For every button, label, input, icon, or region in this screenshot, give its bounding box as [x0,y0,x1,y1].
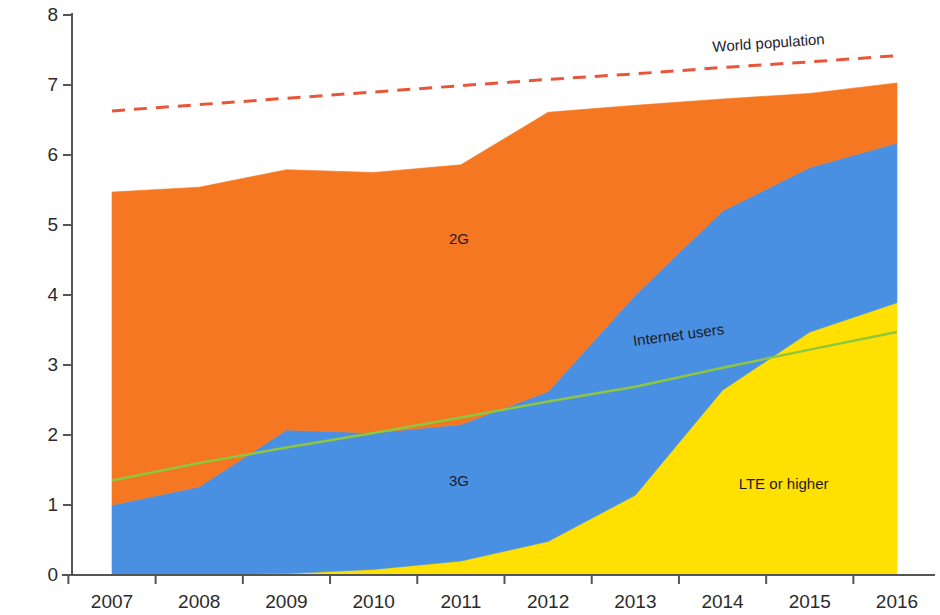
y-tick-label: 6 [24,145,58,164]
area-chart: Billions of people 012345678 20072008200… [0,0,940,615]
plot-area [0,0,940,615]
series-label-2g: 2G [449,231,469,246]
x-tick-label: 2009 [246,592,326,611]
x-tick-label: 2011 [421,592,501,611]
y-tick-label: 2 [24,425,58,444]
y-tick-label: 8 [24,5,58,24]
y-tick-label: 5 [24,215,58,234]
x-tick-label: 2016 [857,592,937,611]
series-label-3g: 3G [449,473,469,488]
x-tick-label: 2012 [508,592,588,611]
y-tick-label: 7 [24,75,58,94]
stacked-areas [112,83,897,575]
x-tick-label: 2014 [683,592,763,611]
y-tick-label: 1 [24,495,58,514]
x-tick-label: 2007 [72,592,152,611]
y-axis-title: Billions of people [0,0,26,1]
x-tick-label: 2008 [159,592,239,611]
x-tick-label: 2013 [595,592,675,611]
y-tick-label: 3 [24,355,58,374]
y-tick-label: 4 [24,285,58,304]
x-tick-label: 2015 [770,592,850,611]
x-tick-label: 2010 [334,592,414,611]
series-label-lte: LTE or higher [739,476,829,491]
y-tick-label: 0 [24,565,58,584]
